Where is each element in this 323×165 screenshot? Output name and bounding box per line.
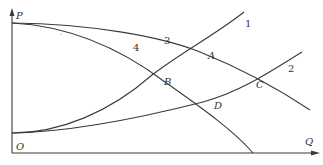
curve-3-label: 3 <box>164 35 170 46</box>
stray-dot <box>60 33 61 34</box>
curve-1-label: 1 <box>245 18 251 29</box>
curve-4-label: 4 <box>133 42 139 53</box>
y-axis-arrow-icon <box>10 8 15 16</box>
curve-2 <box>12 52 302 133</box>
point-a-label: A <box>207 50 215 61</box>
point-d-label: D <box>213 100 222 111</box>
y-axis-label: P <box>15 10 23 21</box>
origin-label: O <box>16 141 24 152</box>
curves <box>12 12 310 153</box>
characteristic-curves-diagram: P Q O 1 2 3 4 A B C D <box>0 0 323 165</box>
point-b-label: B <box>163 76 171 87</box>
curve-2-label: 2 <box>288 63 294 74</box>
curve-1 <box>12 12 244 133</box>
curve-3 <box>12 23 310 110</box>
x-axis-label: Q <box>305 136 313 147</box>
x-axis-arrow-icon <box>311 151 320 156</box>
point-c-label: C <box>256 79 264 90</box>
